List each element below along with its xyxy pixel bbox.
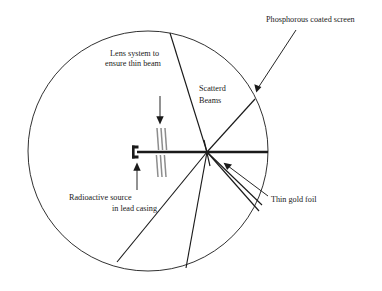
label-source-line2: in lead casing	[112, 204, 157, 213]
label-source-line1: Radioactive source	[69, 193, 132, 202]
label-thin-gold-foil: Thin gold foil	[271, 195, 317, 204]
scattered-beam-down	[186, 152, 207, 268]
scattered-beams-group	[117, 33, 262, 268]
label-scattered-line1: Scatterd	[199, 84, 226, 93]
gold-foil-pointer	[224, 163, 268, 196]
lens-pointer	[156, 96, 163, 125]
label-lens-line1: Lens system to	[110, 49, 159, 58]
label-lens-line2: ensure thin beam	[105, 59, 162, 68]
label-phosphorous-screen: Phosphorous coated screen	[266, 15, 355, 24]
scattered-beam-down-right-b	[207, 152, 259, 211]
label-scattered-line2: Beams	[199, 96, 221, 105]
screen-pointer	[254, 30, 296, 93]
scattered-beam-down-right-a	[207, 152, 262, 205]
source-pointer	[133, 163, 140, 191]
rutherford-experiment-diagram: Phosphorous coated screen Lens system to…	[0, 0, 382, 291]
scattered-beam-up-right	[207, 99, 255, 152]
